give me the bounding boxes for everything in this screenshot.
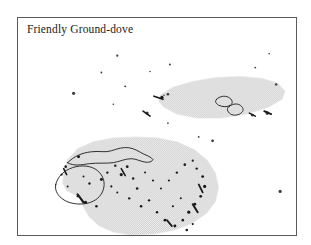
range-island-40	[192, 223, 194, 225]
range-island-16	[116, 191, 118, 193]
range-island-20	[156, 211, 158, 213]
range-island-3	[61, 173, 63, 175]
range-island-37	[172, 205, 174, 207]
island-dot-5	[72, 92, 75, 95]
range-island-28	[201, 175, 204, 178]
island-dot-15	[279, 190, 282, 193]
island-dot-0	[116, 55, 118, 57]
island-dot-19	[251, 114, 254, 117]
range-island-24	[187, 211, 190, 214]
range-island-35	[152, 179, 154, 181]
range-island-9	[106, 171, 108, 173]
range-island-2	[64, 165, 67, 168]
range-island-22	[173, 225, 176, 228]
range-island-1	[77, 155, 80, 158]
island-dot-8	[113, 103, 115, 105]
range-island-31	[184, 163, 187, 166]
island-dot-7	[149, 71, 151, 73]
range-island-34	[160, 187, 162, 189]
range-island-25	[193, 203, 196, 206]
range-island-15	[128, 197, 130, 199]
range-island-14	[136, 187, 139, 190]
island-dot-18	[167, 93, 170, 96]
island-dot-20	[265, 111, 269, 115]
range-island-6	[84, 201, 87, 204]
range-island-32	[176, 171, 178, 173]
range-island-21	[164, 219, 167, 222]
range-island-12	[126, 165, 129, 168]
range-island-27	[203, 185, 206, 188]
range-island-8	[100, 178, 103, 181]
range-island-4	[67, 185, 69, 187]
range-island-0	[160, 96, 163, 99]
island-dot-1	[101, 72, 103, 74]
range-island-33	[168, 179, 170, 181]
range-island-42	[83, 176, 85, 178]
map-title: Friendly Ground-dove	[27, 22, 133, 36]
range-island-13	[132, 177, 134, 179]
range-island-11	[120, 173, 123, 176]
island-dot-11	[198, 136, 200, 138]
range-island-26	[199, 195, 202, 198]
range-island-5	[76, 195, 78, 197]
island-dot-10	[167, 122, 169, 124]
island-dot-3	[254, 67, 256, 69]
range-island-36	[144, 172, 146, 174]
island-dot-12	[211, 139, 214, 142]
map-frame: Friendly Ground-dove	[17, 17, 297, 236]
range-island-19	[148, 199, 150, 201]
island-dot-13	[163, 94, 165, 96]
island-dot-4	[268, 53, 270, 55]
range-island-7	[95, 205, 98, 208]
range-island-38	[180, 197, 182, 199]
range-map-figure: Friendly Ground-dove	[0, 0, 311, 245]
range-island-18	[140, 205, 143, 208]
range-island-30	[192, 160, 194, 162]
island-dot-6	[124, 85, 126, 87]
range-island-23	[182, 219, 185, 222]
range-island-10	[114, 164, 116, 166]
island-dot-9	[145, 112, 148, 115]
island-dot-17	[275, 83, 277, 85]
range-island-41	[88, 182, 90, 184]
island-dot-2	[169, 64, 171, 66]
range-island-29	[196, 167, 198, 169]
range-island-39	[185, 229, 188, 232]
range-island-17	[110, 185, 112, 187]
map-canvas	[18, 18, 296, 235]
